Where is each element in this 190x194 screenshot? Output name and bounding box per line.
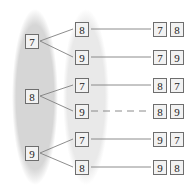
outcome-3-second-digit: 7	[170, 78, 184, 93]
level2-digit-1: 8	[75, 22, 89, 37]
level2-digit-4: 9	[75, 104, 89, 119]
outcome-1-first-digit: 7	[153, 22, 167, 37]
outcome-4-second-digit: 9	[170, 104, 184, 119]
level2-digit-2: 9	[75, 50, 89, 65]
outcome-2-first-digit: 7	[153, 50, 167, 65]
diagram-canvas: 789 897978 787987899798	[0, 0, 190, 194]
outcome-5-second-digit: 7	[170, 132, 184, 147]
outcome-3-first-digit: 8	[153, 78, 167, 93]
level2-digit-3: 7	[75, 78, 89, 93]
outcome-1-second-digit: 8	[170, 22, 184, 37]
outcome-2-second-digit: 9	[170, 50, 184, 65]
level1-digit-1: 7	[25, 34, 39, 49]
level1-digit-3: 9	[25, 146, 39, 161]
level2-digit-5: 7	[75, 132, 89, 147]
level1-digit-2: 8	[25, 89, 39, 104]
outcome-6-first-digit: 9	[153, 160, 167, 175]
outcome-6-second-digit: 8	[170, 160, 184, 175]
outcome-4-first-digit: 8	[153, 104, 167, 119]
level2-digit-6: 8	[75, 160, 89, 175]
outcome-5-first-digit: 9	[153, 132, 167, 147]
